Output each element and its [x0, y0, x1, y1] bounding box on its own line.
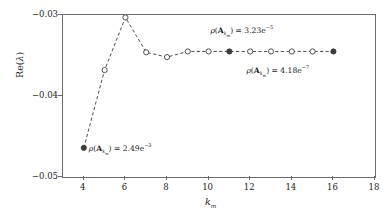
x-tick-mark — [249, 176, 250, 180]
data-point-marker — [144, 50, 149, 55]
y-tick-mark — [58, 14, 62, 15]
y-axis-title: Re(λ) — [14, 52, 25, 78]
annotation-matrix-symbol: A — [218, 26, 224, 35]
x-tick-label: 12 — [229, 182, 269, 192]
data-point-marker — [185, 49, 190, 54]
x-tick-mark — [332, 176, 333, 180]
data-point-marker — [123, 15, 128, 20]
x-tick-label: 10 — [188, 182, 228, 192]
y-tick-label-bottom: −0.05 — [18, 171, 58, 181]
annotation-value-mantissa: 3.23e — [244, 26, 265, 35]
x-tick-label: 4 — [63, 182, 103, 192]
data-point-marker — [289, 49, 294, 54]
x-tick-label: 18 — [354, 182, 386, 192]
x-tick-label: 16 — [312, 182, 352, 192]
x-tick-mark — [374, 176, 375, 180]
annotation-value-exponent: −3 — [144, 142, 151, 148]
x-axis-title-sub: m — [211, 203, 217, 209]
annotation-value-mantissa: 2.49e — [123, 143, 144, 152]
data-point-marker — [102, 67, 107, 72]
annotation-value-exponent: −5 — [266, 24, 273, 30]
data-point-marker — [331, 49, 336, 54]
data-point-marker — [248, 49, 253, 54]
annotation-subscript-2: m — [227, 34, 231, 38]
x-tick-mark — [291, 176, 292, 180]
annotation-equals: = — [269, 66, 280, 75]
y-tick-label-top: −0.03 — [18, 9, 58, 19]
x-tick-mark — [166, 176, 167, 180]
figure-container: −0.03 −0.04 −0.05 4681012141618 Re(λ) km… — [0, 0, 386, 219]
x-axis-title: km — [205, 196, 216, 209]
data-series-line — [84, 17, 334, 147]
annotation-rho-kmin: ρ(Akm) = 2.49e−3 — [89, 142, 152, 156]
y-axis-title-var: λ — [14, 55, 25, 61]
annotation-subscript-2: m — [263, 74, 267, 78]
x-tick-label: 8 — [146, 182, 186, 192]
y-tick-label-mid: −0.04 — [18, 90, 58, 100]
x-tick-mark — [124, 176, 125, 180]
y-axis-title-suffix: ) — [14, 52, 25, 56]
x-tick-label: 14 — [271, 182, 311, 192]
data-point-marker — [268, 49, 273, 54]
x-tick-mark — [208, 176, 209, 180]
annotation-equals: = — [233, 26, 244, 35]
annotation-value-mantissa: 4.18e — [280, 66, 301, 75]
annotation-value-exponent: −7 — [302, 64, 309, 70]
data-point-marker — [164, 55, 169, 60]
annotation-subscript-2: m — [105, 152, 109, 156]
data-point-marker — [206, 49, 211, 54]
data-point-markers — [81, 15, 336, 150]
y-tick-mark — [58, 176, 62, 177]
x-tick-mark — [83, 176, 84, 180]
x-tick-label: 6 — [104, 182, 144, 192]
annotation-rho-mid: ρ(Akm) = 3.23e−5 — [210, 24, 273, 38]
annotation-equals: = — [112, 143, 123, 152]
data-point-marker — [81, 145, 86, 150]
data-point-marker — [310, 49, 315, 54]
data-point-marker — [227, 49, 232, 54]
y-axis-title-prefix: Re( — [14, 62, 25, 78]
annotation-rho-kmax: ρ(Akm) = 4.18e−7 — [246, 64, 309, 78]
y-tick-mark — [58, 95, 62, 96]
annotation-matrix-symbol: A — [254, 66, 260, 75]
